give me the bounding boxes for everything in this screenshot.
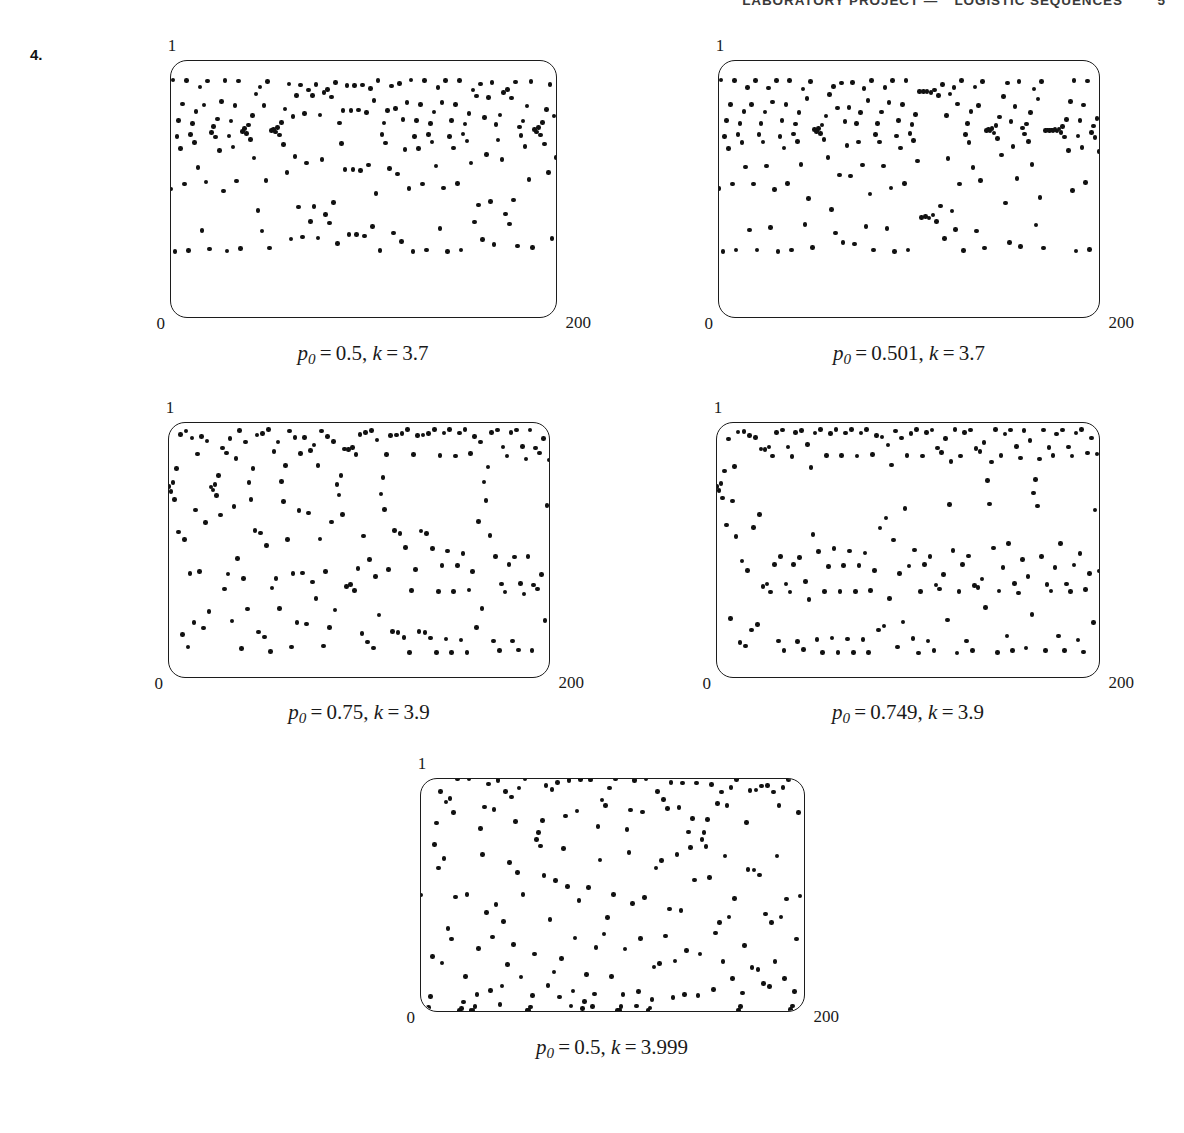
data-point (724, 523, 729, 528)
data-point (841, 563, 846, 568)
data-point (367, 557, 372, 562)
data-point (798, 894, 803, 899)
data-point (1078, 551, 1083, 556)
data-point (434, 650, 439, 655)
data-point (297, 508, 302, 513)
data-point (260, 229, 265, 234)
data-point (536, 830, 541, 835)
data-point (436, 866, 441, 871)
data-point (775, 854, 780, 859)
data-point (228, 436, 233, 441)
data-point (1028, 110, 1033, 115)
data-point (688, 845, 693, 850)
data-point (630, 901, 635, 906)
data-point (329, 95, 334, 100)
data-point (808, 79, 813, 84)
data-point (376, 78, 381, 83)
data-point (497, 648, 502, 653)
data-point (308, 219, 313, 224)
data-point (797, 110, 802, 115)
data-point (903, 506, 908, 511)
data-point (215, 117, 220, 122)
data-point (1080, 145, 1085, 150)
data-point (535, 587, 540, 592)
data-point (982, 246, 987, 251)
data-point (953, 227, 958, 232)
data-point (650, 997, 655, 1002)
data-point (374, 191, 379, 196)
data-point (1089, 436, 1094, 441)
data-point (602, 932, 607, 937)
data-point (517, 786, 522, 791)
data-point (224, 451, 229, 456)
data-point (863, 551, 868, 556)
data-point (540, 120, 545, 125)
data-point (1083, 587, 1088, 592)
data-point (797, 555, 802, 560)
data-point (262, 635, 267, 640)
axis-label-x-max: 200 (814, 1007, 840, 1027)
data-point (329, 520, 334, 525)
data-point (1033, 477, 1038, 482)
data-point (805, 96, 810, 101)
data-point (440, 100, 445, 105)
axis-label-y-max: 1 (166, 398, 175, 418)
data-point (1070, 454, 1075, 459)
data-point (300, 235, 305, 240)
data-point (793, 430, 798, 435)
data-point (1024, 646, 1029, 651)
data-point (776, 639, 781, 644)
data-point (459, 1006, 464, 1011)
data-point (941, 572, 946, 577)
data-point (229, 119, 234, 124)
data-point (188, 132, 193, 137)
data-point (702, 830, 707, 835)
data-point (323, 569, 328, 574)
caption-k-symbol: k (373, 341, 382, 365)
caption-p0-subscript: 0 (308, 351, 316, 367)
data-point (736, 430, 741, 435)
data-point (411, 249, 416, 254)
data-point (461, 132, 466, 137)
data-point (782, 146, 787, 151)
data-point (421, 433, 426, 438)
data-point (511, 942, 516, 947)
data-point (348, 582, 353, 587)
data-point (312, 204, 317, 209)
data-point (1066, 148, 1071, 153)
data-point (199, 434, 204, 439)
data-point (853, 589, 858, 594)
data-point (782, 648, 787, 653)
caption-p0-symbol: p (288, 700, 299, 724)
data-point (411, 452, 416, 457)
data-point (1087, 571, 1092, 576)
data-point (1036, 97, 1041, 102)
data-point (991, 546, 996, 551)
data-point (327, 221, 332, 226)
data-point (490, 935, 495, 940)
data-point (763, 110, 768, 115)
data-point (785, 181, 790, 186)
caption-equals-1: = (855, 341, 867, 365)
data-point (1030, 612, 1035, 617)
data-point (1026, 139, 1031, 144)
data-point (944, 113, 949, 118)
data-point (803, 579, 808, 584)
data-point (400, 431, 405, 436)
data-point (625, 827, 630, 832)
data-point (607, 786, 612, 791)
data-point (1037, 457, 1042, 462)
data-point (722, 134, 727, 139)
data-point (272, 449, 277, 454)
data-point (559, 956, 564, 961)
data-point (533, 446, 538, 451)
data-point (447, 134, 452, 139)
data-point (258, 85, 263, 90)
data-point (171, 480, 176, 485)
data-point (550, 236, 555, 241)
data-point (447, 427, 452, 432)
data-point (416, 146, 421, 151)
data-point (663, 934, 668, 939)
data-point (186, 645, 191, 650)
caption-k-value: 3.999 (641, 1035, 688, 1059)
